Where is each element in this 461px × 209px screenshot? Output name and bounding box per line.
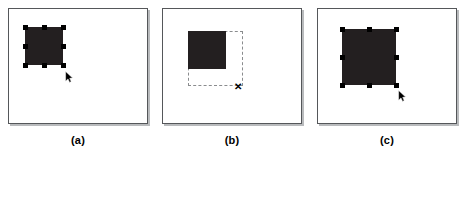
shape-square[interactable] [25, 27, 63, 65]
drag-cross-cursor-icon: ✕ [233, 82, 242, 91]
shape-square[interactable] [342, 29, 396, 85]
panel-c [317, 8, 457, 124]
handle-bottom-center[interactable] [367, 83, 372, 88]
mouse-arrow-cursor-icon [398, 88, 406, 100]
handle-top-right[interactable] [61, 25, 66, 30]
mouse-arrow-cursor-icon [65, 69, 73, 81]
handle-top-right[interactable] [394, 27, 399, 32]
canvas-a[interactable] [9, 9, 147, 123]
handle-middle-right[interactable] [61, 44, 66, 49]
handle-middle-right[interactable] [394, 55, 399, 60]
canvas-c[interactable] [318, 9, 456, 123]
handle-bottom-center[interactable] [42, 63, 47, 68]
caption-b: (b) [202, 134, 262, 146]
panel-b: ✕ [162, 8, 302, 124]
caption-c: (c) [357, 134, 417, 146]
shape-square[interactable] [188, 31, 226, 69]
canvas-b[interactable]: ✕ [163, 9, 301, 123]
handle-middle-left[interactable] [340, 55, 345, 60]
handle-top-left[interactable] [23, 25, 28, 30]
panel-a [8, 8, 148, 124]
handle-bottom-right[interactable] [61, 63, 66, 68]
handle-top-center[interactable] [42, 25, 47, 30]
handle-top-center[interactable] [367, 27, 372, 32]
handle-bottom-left[interactable] [23, 63, 28, 68]
figure-container: (a)✕(b)(c) [0, 0, 461, 209]
handle-top-left[interactable] [340, 27, 345, 32]
caption-a: (a) [48, 134, 108, 146]
handle-middle-left[interactable] [23, 44, 28, 49]
handle-bottom-left[interactable] [340, 83, 345, 88]
